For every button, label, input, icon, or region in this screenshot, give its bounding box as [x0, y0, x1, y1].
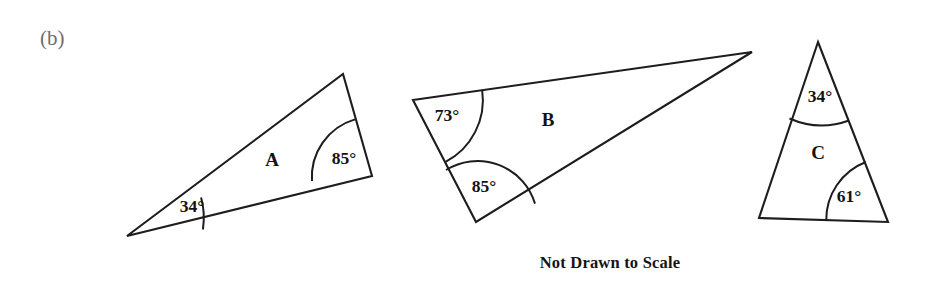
triangle-c-angle-34-arc	[790, 119, 850, 126]
triangle-b-angle-85-label: 85°	[472, 176, 497, 196]
not-drawn-to-scale-caption: Not Drawn to Scale	[540, 253, 681, 272]
triangle-c-label: C	[811, 142, 825, 163]
item-label-b: (b)	[40, 26, 65, 50]
triangle-c-group: 34° 61° C	[759, 42, 888, 222]
triangle-c-angle-34-label: 34°	[808, 86, 833, 106]
triangle-b-group: 73° 85° B	[413, 52, 752, 222]
triangle-c-angle-61-label: 61°	[837, 186, 862, 206]
triangle-c-outline	[759, 42, 888, 222]
triangle-b-outline	[413, 52, 752, 222]
triangle-b-angle-73-arc	[446, 90, 483, 162]
triangle-a-angle-85-label: 85°	[332, 148, 357, 168]
triangle-a-angle-34-label: 34°	[180, 196, 205, 216]
geometry-figure-panel: (b) 34° 85° A 73° 85° B 34° 61° C Not Dr…	[0, 0, 932, 288]
figure-canvas: (b) 34° 85° A 73° 85° B 34° 61° C Not Dr…	[0, 0, 932, 288]
triangle-a-group: 34° 85° A	[127, 74, 372, 236]
triangle-b-label: B	[542, 109, 555, 130]
triangle-b-angle-73-label: 73°	[435, 105, 460, 125]
triangle-a-label: A	[265, 149, 279, 170]
